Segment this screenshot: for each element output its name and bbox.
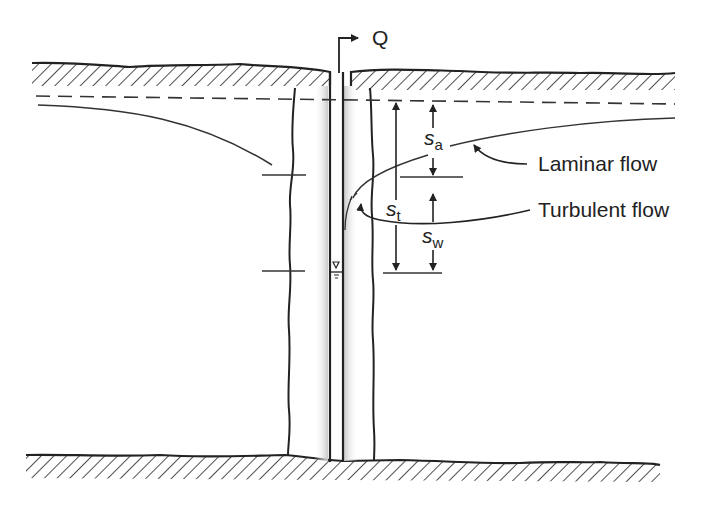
gravel-pack-shade-left [314,86,328,461]
symbol-sw: sw [422,224,443,251]
well-drawdown-diagram: Q sa st sw Laminar flow Turbulent flow [0,0,706,513]
water-level-symbol [330,262,343,278]
laminar-flow-label: Laminar flow [538,152,657,176]
drawdown-curve-right [450,118,675,146]
gravel-pack-shade-right [344,86,358,461]
borehole-wall-right [370,88,374,461]
turbulent-flow-label: Turbulent flow [538,198,669,222]
discharge-pipe-arrow [339,38,358,73]
top-ground-surface [32,63,675,90]
laminar-leader [474,145,527,164]
discharge-label: Q [372,26,388,50]
symbol-sa: sa [424,126,443,153]
symbol-st: st [386,197,401,224]
drawdown-curve-left [38,105,272,165]
